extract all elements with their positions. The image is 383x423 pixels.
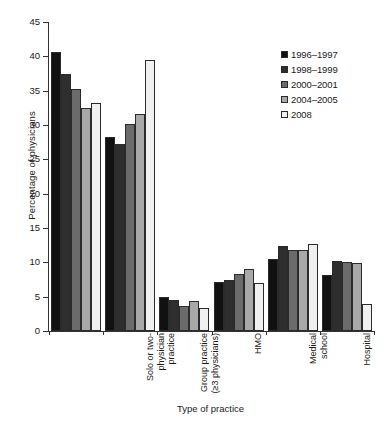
bar-group: [103, 22, 157, 331]
y-axis-tick: 30: [43, 125, 48, 126]
legend-item: 1998–1999: [281, 62, 381, 77]
bar: [352, 263, 362, 331]
legend-label: 2004–2005: [291, 94, 338, 105]
legend-swatch: [281, 81, 288, 88]
bar: [268, 259, 278, 331]
y-axis-tick: 20: [43, 194, 48, 195]
legend-swatch: [281, 51, 288, 58]
legend-swatch: [281, 96, 288, 103]
bar-group: [49, 22, 103, 331]
legend-label: 1996–1997: [291, 49, 338, 60]
bar: [189, 301, 199, 331]
y-axis-tick: 25: [43, 159, 48, 160]
bar: [105, 137, 115, 331]
bar: [342, 262, 352, 331]
y-axis-tick-label: 35: [18, 85, 40, 96]
bar: [322, 275, 332, 331]
bar: [308, 244, 318, 331]
bar: [244, 269, 254, 331]
bar: [254, 283, 264, 331]
legend-label: 1998–1999: [291, 64, 338, 75]
x-axis-title: Type of practice: [48, 403, 373, 414]
x-axis-category-label: Group practice (≥3 physicians): [199, 333, 220, 403]
y-axis-tick: 45: [43, 22, 48, 23]
bar: [214, 282, 224, 331]
bar: [115, 144, 125, 331]
y-axis-tick: 15: [43, 228, 48, 229]
y-axis-tick-label: 10: [18, 256, 40, 267]
y-axis-tick-label: 5: [18, 291, 40, 302]
y-axis-tick-label: 15: [18, 222, 40, 233]
legend-swatch: [281, 111, 288, 118]
y-axis-tick: 5: [43, 297, 48, 298]
y-axis-tick: 10: [43, 262, 48, 263]
legend-swatch: [281, 66, 288, 73]
legend-item: 2000–2001: [281, 77, 381, 92]
bar: [159, 297, 169, 331]
bar: [288, 250, 298, 331]
bar: [81, 108, 91, 331]
y-axis-tick: 0: [43, 331, 48, 332]
bar: [61, 74, 71, 331]
bar: [51, 52, 61, 331]
y-axis-tick-label: 30: [18, 119, 40, 130]
bar-chart: Percentage of physicians 051015202530354…: [0, 0, 383, 423]
x-axis-category-labels: Solo or two- physician practiceGroup pra…: [48, 333, 373, 399]
x-axis-category-label: Solo or two- physician practice: [145, 333, 177, 403]
bar: [298, 250, 308, 331]
y-axis-tick-label: 40: [18, 50, 40, 61]
bar: [71, 89, 81, 331]
bar-group: [157, 22, 211, 331]
x-axis-category-label: Medical school: [308, 333, 329, 403]
y-axis-tick: 40: [43, 56, 48, 57]
y-axis-tick: 35: [43, 91, 48, 92]
y-axis-tick-label: 20: [18, 188, 40, 199]
bar: [169, 300, 179, 331]
x-axis-category-label: Hospital: [362, 333, 373, 403]
legend-item: 1996–1997: [281, 47, 381, 62]
bar: [234, 274, 244, 331]
bar: [179, 306, 189, 331]
bar: [362, 304, 372, 331]
legend-item: 2004–2005: [281, 92, 381, 107]
bar-group: [211, 22, 265, 331]
bar: [199, 308, 209, 331]
legend: 1996–19971998–19992000–20012004–20052008: [281, 47, 381, 122]
bar: [135, 114, 145, 331]
x-axis-tick: [374, 331, 375, 335]
bar: [224, 280, 234, 332]
bar: [145, 60, 155, 331]
y-axis-tick-label: 25: [18, 153, 40, 164]
bar: [91, 103, 101, 331]
bar: [125, 124, 135, 331]
legend-item: 2008: [281, 107, 381, 122]
y-axis-tick-label: 45: [18, 16, 40, 27]
legend-label: 2000–2001: [291, 79, 338, 90]
bar: [278, 246, 288, 331]
bar: [332, 261, 342, 331]
legend-label: 2008: [291, 109, 312, 120]
y-axis-tick-label: 0: [18, 325, 40, 336]
x-axis-category-label: HMO: [253, 333, 264, 403]
